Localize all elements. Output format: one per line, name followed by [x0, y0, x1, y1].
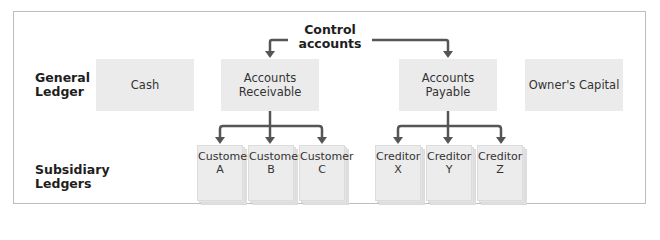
subsidiary-ledgers-label-line2: Ledgers [35, 177, 110, 191]
account-label: Payable [422, 85, 474, 99]
account-label: Owner's Capital [529, 78, 620, 92]
subsidiary-label: Creditor [427, 150, 471, 163]
subsidiary-label: B [249, 163, 293, 176]
subsidiary-ledgers-label-line1: Subsidiary [35, 163, 110, 177]
subsidiary-creditor-y: Creditor Y [426, 145, 474, 203]
subsidiary-label: C [300, 163, 344, 176]
control-label-line2: accounts [290, 37, 370, 51]
account-box-cash: Cash [96, 59, 194, 111]
control-arrow-right [372, 40, 448, 52]
subsidiary-label: Creditor [376, 150, 420, 163]
arrow-head-icon [443, 51, 453, 58]
subsidiary-label: X [376, 163, 420, 176]
subsidiary-customer-a: Customer A [197, 145, 245, 203]
general-ledger-label-line2: Ledger [35, 85, 90, 99]
subsidiary-customer-b: Customer B [248, 145, 296, 203]
account-label: Accounts [422, 71, 474, 85]
subsidiary-label: Z [478, 163, 522, 176]
subsidiary-label: Creditor [478, 150, 522, 163]
subsidiary-label: A [198, 163, 242, 176]
payable-branch [398, 111, 501, 138]
account-label: Cash [131, 78, 159, 92]
control-accounts-label: Control accounts [290, 23, 370, 51]
subsidiary-creditor-x: Creditor X [375, 145, 423, 203]
subsidiary-label: Customer [198, 150, 242, 163]
general-ledger-label-line1: General [35, 71, 90, 85]
account-label: Receivable [239, 85, 302, 99]
account-box-owners-capital: Owner's Capital [525, 59, 623, 111]
account-box-accounts-payable: Accounts Payable [399, 59, 497, 111]
account-box-accounts-receivable: Accounts Receivable [221, 59, 319, 111]
subsidiary-label: Customer [249, 150, 293, 163]
control-arrow-left [270, 40, 288, 52]
arrow-head-icon [265, 51, 275, 58]
subsidiary-label: Customer [300, 150, 344, 163]
subsidiary-label: Y [427, 163, 471, 176]
subsidiary-customer-c: Customer C [299, 145, 347, 203]
receivable-branch [220, 111, 322, 138]
control-label-line1: Control [290, 23, 370, 37]
account-label: Accounts [239, 71, 302, 85]
subsidiary-ledgers-label: Subsidiary Ledgers [35, 163, 110, 191]
general-ledger-label: General Ledger [35, 71, 90, 99]
subsidiary-creditor-z: Creditor Z [477, 145, 525, 203]
